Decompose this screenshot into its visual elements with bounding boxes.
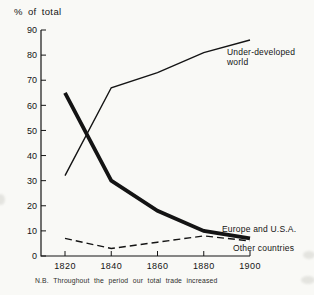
x-tick-label: 1840	[100, 261, 122, 271]
series-label-europe-and-usa: Europe and U.S.A.	[222, 224, 296, 234]
y-tick-label: 10	[27, 226, 37, 236]
x-tick-label: 1880	[193, 261, 215, 271]
y-tick-label: 40	[27, 151, 37, 161]
x-tick-label: 1900	[239, 261, 261, 271]
axes	[41, 30, 250, 256]
y-tick-label: 0	[32, 251, 37, 261]
x-tick-label: 1860	[147, 261, 169, 271]
y-tick-label: 30	[27, 176, 37, 186]
series-label-under-developed-world: Under-developed world	[227, 47, 301, 67]
scan-smudge	[301, 276, 314, 284]
y-tick-label: 50	[27, 126, 37, 136]
y-tick-label: 80	[27, 50, 37, 60]
series-line-other-countries	[65, 236, 250, 249]
scan-smudge	[303, 251, 314, 259]
y-tick-label: 90	[27, 25, 37, 35]
x-tick-label: 1820	[54, 261, 76, 271]
y-tick-label: 60	[27, 101, 37, 111]
y-tick-label: 70	[27, 75, 37, 85]
series-line-under-developed-world	[65, 40, 250, 176]
series-line-europe-and-u-s-a	[65, 93, 250, 239]
footnote: N.B. Throughout the period our total tra…	[35, 277, 217, 284]
series-label-other-countries: Other countries	[233, 243, 294, 253]
trade-share-chart: % of total 01020304050607080901820184018…	[0, 0, 314, 295]
y-tick-label: 20	[27, 201, 37, 211]
